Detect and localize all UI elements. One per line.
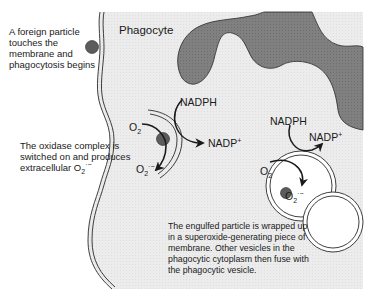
- step3-line-2: in a superoxide-generating piece of: [168, 232, 309, 243]
- step2-line-1: The oxidase complex is: [20, 140, 130, 151]
- vesicle-superoxide-label: O2·−: [285, 190, 304, 202]
- vesicle-nadp-plus-label: NADP+: [309, 131, 342, 143]
- step1-line-4: phagocytosis begins: [9, 59, 95, 70]
- step2-label: The oxidase complex is switched on and p…: [20, 140, 130, 173]
- phagocyte-label: Phagocyte: [119, 24, 173, 36]
- step3-line-5: the phagocytic vesicle.: [168, 265, 309, 276]
- step3-line-4: phagocytic cytoplasm then fuse with: [168, 254, 309, 265]
- step2-line-2: switched on and produces: [20, 151, 130, 162]
- step1-label: A foreign particle touches the membrane …: [9, 26, 95, 70]
- step1-line-1: A foreign particle: [9, 26, 95, 37]
- nadph-label: NADPH: [180, 96, 217, 108]
- oxygen-label: O2: [129, 121, 141, 133]
- fusing-vesicle-inner: [307, 196, 359, 248]
- step3-line-1: The engulfed particle is wrapped up: [168, 221, 309, 232]
- superoxide-label: O2·−: [136, 163, 155, 175]
- step3-line-3: membrane. Other vesicles in the: [168, 243, 309, 254]
- vesicle-nadph-label: NADPH: [270, 115, 307, 127]
- step1-line-2: touches the: [9, 37, 95, 48]
- nadp-plus-label: NADP+: [208, 137, 241, 149]
- vesicle-oxygen-label: O2: [260, 165, 272, 177]
- step2-line-3: extracellular O2·−: [20, 162, 130, 173]
- step3-caption: The engulfed particle is wrapped up in a…: [168, 221, 309, 276]
- step1-line-3: membrane and: [9, 48, 95, 59]
- particle-at-oxidase-icon: [157, 133, 170, 146]
